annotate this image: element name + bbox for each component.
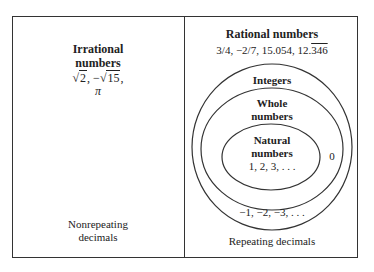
sqrt-2: √2: [73, 71, 88, 85]
irrational-footer: Nonrepeating decimals: [12, 218, 184, 244]
minus-sign: −: [93, 71, 100, 85]
whole-examples-zero: 0: [326, 150, 338, 163]
irrational-footer-line1: Nonrepeating: [12, 218, 184, 231]
irrational-footer-line2: decimals: [12, 231, 184, 244]
radicand: 15: [106, 70, 120, 85]
separator: ,: [120, 71, 123, 85]
whole-title-line2: numbers: [232, 110, 312, 123]
sqrt-15: √15: [100, 71, 121, 85]
natural-examples: 1, 2, 3, . . .: [232, 160, 312, 173]
rational-examples-text: 3/4, −2/7, 15.054, 12.: [216, 44, 311, 56]
integers-title: Integers: [232, 74, 312, 87]
rational-footer: Repeating decimals: [185, 235, 359, 248]
natural-title-line2: numbers: [232, 147, 312, 160]
radicand: 2: [79, 70, 87, 85]
whole-numbers-title: Whole numbers: [232, 97, 312, 123]
natural-numbers-title: Natural numbers: [232, 134, 312, 160]
rational-title: Rational numbers: [185, 27, 359, 41]
irrational-examples: √2, −√15,: [12, 71, 184, 85]
whole-title-line1: Whole: [232, 97, 312, 110]
integers-examples: −1, −2, −3, . . .: [222, 206, 322, 219]
irrational-title: Irrational numbers: [12, 42, 184, 70]
irrational-title-line2: numbers: [12, 56, 184, 70]
pi-example: π: [12, 84, 184, 98]
rational-examples: 3/4, −2/7, 15.054, 12.346: [185, 44, 359, 57]
irrational-title-line1: Irrational: [12, 42, 184, 56]
natural-title-line1: Natural: [232, 134, 312, 147]
repeating-digits: 346: [311, 44, 328, 56]
